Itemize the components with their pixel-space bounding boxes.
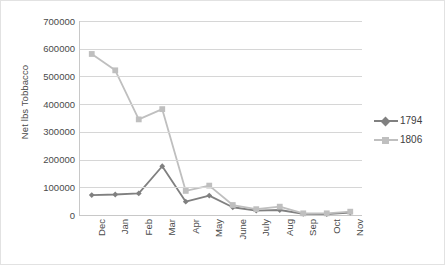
x-axis-tick-label: Aug	[284, 217, 295, 261]
x-axis-tick-label: Nov	[354, 217, 365, 261]
chart-container: Net lbs Tobbacco 01000002000003000004000…	[0, 0, 445, 265]
series-line-1806	[92, 54, 351, 213]
y-axis-tick-label: 200000	[29, 154, 75, 165]
square-marker-icon	[382, 137, 389, 144]
data-point-diamond-marker	[112, 192, 118, 198]
data-point-diamond-marker	[206, 193, 212, 199]
legend-swatch-1806	[374, 134, 398, 146]
x-axis-tick-label: May	[213, 217, 224, 261]
data-point-diamond-marker	[89, 192, 95, 198]
data-point-square-marker	[183, 188, 189, 194]
y-axis-tick-label: 0	[29, 210, 75, 221]
plot-area	[79, 21, 362, 216]
x-axis-tick-label: July	[260, 217, 271, 261]
y-axis-tick-label: 400000	[29, 99, 75, 110]
y-axis-tick-labels: 0100000200000300000400000500000600000700…	[29, 15, 75, 221]
x-axis-tick-label: Dec	[96, 217, 107, 261]
x-axis-tick-label: Jan	[119, 217, 130, 261]
legend-item-1794[interactable]: 1794	[374, 111, 440, 130]
data-point-square-marker	[230, 202, 236, 208]
y-axis-tick-label: 100000	[29, 182, 75, 193]
gridline	[80, 187, 362, 188]
data-point-square-marker	[277, 204, 283, 210]
gridline	[80, 104, 362, 105]
legend-label-1806: 1806	[398, 134, 422, 146]
data-point-square-marker	[253, 206, 259, 212]
x-axis-tick-label: June	[237, 217, 248, 261]
chart-legend: 1794 1806	[374, 111, 440, 149]
y-axis-tick-label: 600000	[29, 43, 75, 54]
data-point-square-marker	[89, 51, 95, 57]
diamond-marker-icon	[381, 116, 391, 126]
data-point-square-marker	[347, 209, 353, 215]
data-point-square-marker	[112, 67, 118, 73]
x-axis-tick-label: Mar	[166, 217, 177, 261]
x-axis-tick-label: Oct	[331, 217, 342, 261]
y-axis-tick-label: 700000	[29, 16, 75, 27]
x-axis-tick-label: Feb	[143, 217, 154, 261]
data-point-square-marker	[300, 210, 306, 216]
data-point-square-marker	[324, 210, 330, 216]
y-axis-tick-label: 500000	[29, 71, 75, 82]
gridline	[80, 49, 362, 50]
x-axis-tick-labels: DecJanFebMarAprMayJuneJulyAugSepOctNov	[79, 217, 361, 263]
gridline	[80, 132, 362, 133]
gridline	[80, 76, 362, 77]
series-line-1794	[92, 166, 351, 214]
gridline	[80, 160, 362, 161]
x-axis-tick-label: Apr	[190, 217, 201, 261]
legend-label-1794: 1794	[398, 115, 422, 127]
legend-swatch-1794	[374, 115, 398, 127]
series-lines	[80, 21, 362, 215]
data-point-square-marker	[159, 106, 165, 112]
gridline	[80, 21, 362, 22]
legend-item-1806[interactable]: 1806	[374, 130, 440, 149]
x-axis-tick-label: Sep	[307, 217, 318, 261]
data-point-square-marker	[136, 116, 142, 122]
y-axis-tick-label: 300000	[29, 126, 75, 137]
